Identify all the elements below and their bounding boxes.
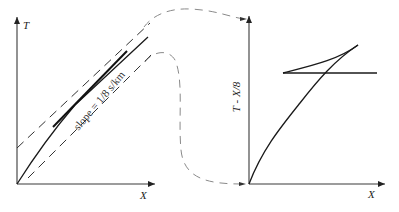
reduced-main-branch bbox=[249, 45, 358, 184]
left-panel: T X slope = 1/8 s/km bbox=[17, 17, 155, 201]
left-x-axis-label: X bbox=[139, 189, 148, 201]
upper-connector-arrowhead bbox=[240, 17, 247, 21]
left-t-axis-label: T bbox=[23, 19, 30, 31]
upper-connector bbox=[144, 9, 244, 27]
upper-dashed-line bbox=[17, 23, 150, 148]
right-x-axis-label: X bbox=[367, 188, 376, 200]
right-reduced-time-axis-label: T - X/8 bbox=[230, 81, 242, 112]
lower-connector-arrowhead bbox=[239, 182, 246, 186]
right-panel: T - X/8 X bbox=[230, 16, 385, 200]
reduced-cusp-branch bbox=[283, 45, 358, 73]
lower-connector bbox=[145, 53, 243, 184]
reduced-traveltime-diagram: T X slope = 1/8 s/km T - X/8 X bbox=[0, 0, 399, 212]
